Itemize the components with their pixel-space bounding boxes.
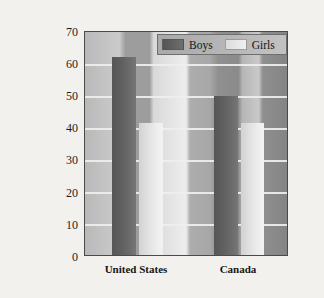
bar-canada-girls	[241, 123, 264, 255]
y-tick-label: 60	[46, 58, 82, 70]
plot-area: Boys Girls	[84, 31, 288, 256]
legend-swatch-girls-icon	[225, 39, 247, 50]
legend-entry-boys: Boys	[162, 35, 213, 54]
legend-label-boys: Boys	[189, 39, 213, 51]
legend-swatch-boys-icon	[162, 39, 184, 50]
bar-canada-boys	[214, 96, 238, 255]
y-tick-label: 40	[46, 122, 82, 134]
y-tick-label: 30	[46, 154, 82, 166]
y-tick-label: 50	[46, 90, 82, 102]
bar-united-states-girls	[139, 123, 163, 255]
y-tick-label: 0	[46, 251, 82, 263]
legend: Boys Girls	[157, 34, 287, 55]
x-label-united-states: United States	[84, 262, 188, 276]
x-axis-category-labels: United States Canada	[84, 262, 288, 280]
x-label-canada: Canada	[188, 262, 288, 276]
legend-label-girls: Girls	[252, 39, 275, 51]
y-axis-tick-labels: 70 60 50 40 30 20 10 0	[46, 0, 82, 298]
legend-entry-girls: Girls	[225, 35, 275, 54]
bar-chart-figure: Percentage of High School Students 70 60…	[0, 0, 324, 298]
y-tick-label: 20	[46, 187, 82, 199]
bar-united-states-boys	[112, 57, 136, 255]
y-tick-label: 70	[46, 26, 82, 38]
y-tick-label: 10	[46, 219, 82, 231]
